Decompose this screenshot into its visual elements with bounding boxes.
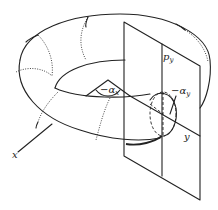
label-x: x bbox=[12, 149, 18, 160]
x-pointer bbox=[18, 124, 52, 152]
meridian-1 bbox=[81, 17, 88, 60]
meridian-1-solid bbox=[86, 17, 88, 27]
plane-line-y bbox=[130, 96, 200, 136]
label-y: y bbox=[183, 131, 190, 142]
meridian-3 bbox=[16, 69, 52, 76]
label-alpha-y: −αy bbox=[171, 85, 191, 98]
torus-diagram: −αx py −αy y x bbox=[0, 0, 218, 210]
meridian-right-solid bbox=[176, 24, 185, 30]
torus-outer-bottom bbox=[19, 60, 160, 140]
meridian-front bbox=[96, 98, 110, 140]
label-p-y: py bbox=[163, 51, 174, 64]
meridian-left bbox=[38, 92, 58, 122]
meridian-left-solid bbox=[36, 122, 38, 128]
